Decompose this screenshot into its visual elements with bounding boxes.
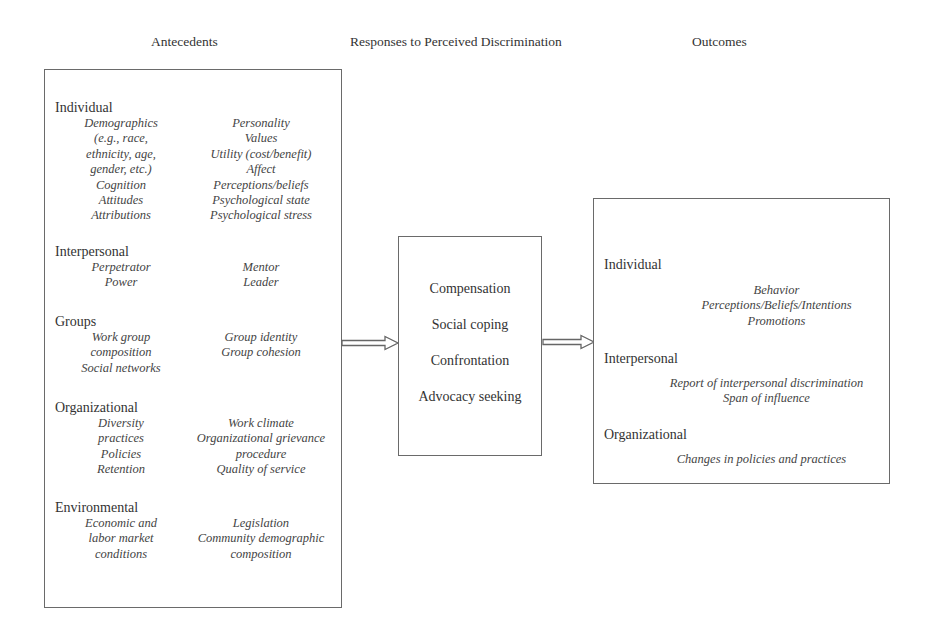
item: Economic and [55,516,187,531]
item: Behavior [664,283,889,298]
antecedents-box: Individual Demographics (e.g., race, eth… [44,69,342,608]
category-label: Environmental [55,500,335,516]
outcome-interpersonal-label: Interpersonal [604,351,678,367]
item: Psychological stress [187,208,335,223]
item: Quality of service [187,462,335,477]
item: Attitudes [55,193,187,208]
item: Perceptions/beliefs [187,178,335,193]
item: Promotions [664,314,889,329]
response-compensation: Compensation [399,281,541,297]
item: (e.g., race, [55,131,187,146]
outcome-individual-label: Individual [604,257,662,273]
item: Group identity [187,330,335,345]
arrow-right-icon [542,334,596,350]
category-label: Individual [55,100,335,116]
item: Span of influence [644,391,889,406]
category-label: Interpersonal [55,244,335,260]
item: Affect [187,162,335,177]
item: practices [55,431,187,446]
response-advocacy-seeking: Advocacy seeking [399,389,541,405]
item: Changes in policies and practices [634,452,889,467]
antecedent-environmental: Environmental Economic and labor market … [55,500,335,562]
item: composition [55,345,187,360]
item: ethnicity, age, [55,147,187,162]
response-social-coping: Social coping [399,317,541,333]
item: Perpetrator [55,260,187,275]
header-responses: Responses to Perceived Discrimination [350,34,562,50]
item: labor market [55,531,187,546]
item: Retention [55,462,187,477]
item: Organizational grievance [187,431,335,446]
outcome-organizational-items: Changes in policies and practices [634,452,889,467]
outcome-organizational-label: Organizational [604,427,687,443]
response-confrontation: Confrontation [399,353,541,369]
item: composition [187,547,335,562]
arrow-right-icon [341,335,401,351]
item: Perceptions/Beliefs/Intentions [664,298,889,313]
item: Social networks [55,361,187,376]
item: procedure [187,447,335,462]
outcomes-box: Individual Behavior Perceptions/Beliefs/… [593,198,890,484]
item: Work climate [187,416,335,431]
item: Diversity [55,416,187,431]
item: conditions [55,547,187,562]
item: Mentor [187,260,335,275]
item: Legislation [187,516,335,531]
antecedent-individual: Individual Demographics (e.g., race, eth… [55,100,335,224]
header-antecedents: Antecedents [151,34,218,50]
item: Work group [55,330,187,345]
category-label: Organizational [55,400,335,416]
item: gender, etc.) [55,162,187,177]
item: Psychological state [187,193,335,208]
item: Policies [55,447,187,462]
antecedent-interpersonal: Interpersonal Perpetrator Power Mentor L… [55,244,335,291]
item: Report of interpersonal discrimination [644,376,889,391]
item: Group cohesion [187,345,335,360]
item: Utility (cost/benefit) [187,147,335,162]
responses-box: Compensation Social coping Confrontation… [398,236,542,456]
item: Values [187,131,335,146]
category-label: Groups [55,314,335,330]
item: Personality [187,116,335,131]
item: Power [55,275,187,290]
antecedent-groups: Groups Work group composition Social net… [55,314,335,376]
outcome-interpersonal-items: Report of interpersonal discrimination S… [644,376,889,407]
item: Community demographic [187,531,335,546]
item: Leader [187,275,335,290]
outcome-individual-items: Behavior Perceptions/Beliefs/Intentions … [664,283,889,329]
header-outcomes: Outcomes [692,34,747,50]
item: Demographics [55,116,187,131]
item: Cognition [55,178,187,193]
item: Attributions [55,208,187,223]
antecedent-organizational: Organizational Diversity practices Polic… [55,400,335,478]
